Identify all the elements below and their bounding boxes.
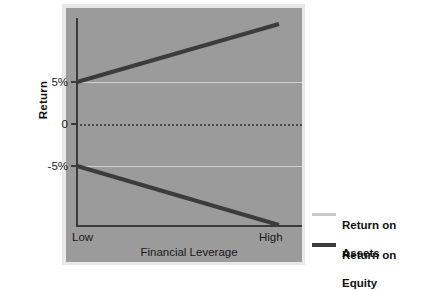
legend-item-return-on-equity: Return on Equity [310, 233, 428, 262]
series-line-return-on-equity-upper [77, 24, 279, 82]
legend-item-return-on-assets: Return on Assets [310, 203, 428, 232]
x-tick-label-high: High [259, 231, 283, 243]
legend-label-return-on-assets-line1: Return on [342, 219, 396, 231]
legend-swatch-return-on-assets-icon [312, 213, 336, 216]
legend-label-return-on-equity: Return on Equity [342, 234, 396, 290]
x-tick-label-low: Low [72, 231, 93, 243]
chart-legend: Return on Assets Return on Equity [310, 203, 428, 263]
series-line-return-on-equity-lower [77, 166, 279, 225]
x-axis-title: Financial Leverage [76, 246, 302, 258]
legend-swatch-return-on-equity-icon [312, 243, 336, 247]
legend-label-return-on-equity-line1: Return on [342, 249, 396, 261]
legend-label-return-on-equity-line2: Equity [342, 277, 377, 289]
